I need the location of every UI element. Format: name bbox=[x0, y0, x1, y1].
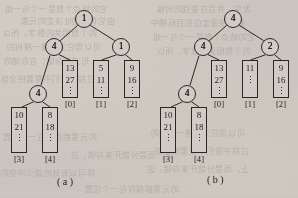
node-label: 4 bbox=[201, 42, 206, 52]
bucket-value: 8 bbox=[197, 110, 202, 122]
bucket-value: 10 bbox=[164, 110, 173, 122]
bucket-value: 27 bbox=[215, 75, 224, 87]
bucket-value: 16 bbox=[277, 75, 286, 87]
bucket-ellipsis: ⋮ bbox=[246, 75, 255, 85]
bucket-ellipsis: ⋮ bbox=[277, 86, 286, 96]
bucket-value: 9 bbox=[279, 63, 284, 75]
bucket-index-b-1: [1] bbox=[242, 99, 258, 109]
bucket-b-1[interactable]: 11 ⋮ bbox=[242, 60, 258, 98]
scanned-page: 它的结点个数是一个与一组 由它们的地址决定的元素 的个数相关的数字，所以 可以用… bbox=[0, 0, 298, 198]
node-label: 4 bbox=[185, 89, 190, 99]
bucket-index-b-2: [2] bbox=[273, 99, 289, 109]
bucket-ellipsis: ⋮ bbox=[195, 133, 204, 143]
figure-caption-b: ( b ) bbox=[207, 174, 224, 185]
bucket-b-2[interactable]: 9 16 ⋮ bbox=[273, 60, 289, 98]
node-b-left-child[interactable]: 4 bbox=[194, 38, 212, 56]
bucket-index-b-0: [0] bbox=[211, 99, 227, 109]
node-b-right-child[interactable]: 2 bbox=[261, 38, 279, 56]
node-label: 2 bbox=[268, 42, 273, 52]
figure-panel-b: 4 4 2 4 13 27 ⋮ [0] 11 ⋮ [1] 9 16 ⋮ [2] bbox=[0, 0, 298, 198]
bucket-index-b-4: [4] bbox=[191, 154, 207, 164]
bucket-b-4[interactable]: 8 18 ⋮ bbox=[191, 107, 207, 153]
bucket-ellipsis: ⋮ bbox=[164, 133, 173, 143]
bucket-value: 21 bbox=[164, 122, 173, 134]
bucket-value: 13 bbox=[215, 63, 224, 75]
node-b-grandchild[interactable]: 4 bbox=[178, 85, 196, 103]
bucket-b-0[interactable]: 13 27 ⋮ bbox=[211, 60, 227, 98]
bucket-b-3[interactable]: 10 21 ⋮ bbox=[160, 107, 176, 153]
bucket-ellipsis: ⋮ bbox=[215, 86, 224, 96]
bucket-index-b-3: [3] bbox=[160, 154, 176, 164]
bucket-value: 11 bbox=[246, 63, 255, 75]
bucket-value: 18 bbox=[195, 122, 204, 134]
node-b-root[interactable]: 4 bbox=[224, 10, 242, 28]
node-label: 4 bbox=[231, 14, 236, 24]
